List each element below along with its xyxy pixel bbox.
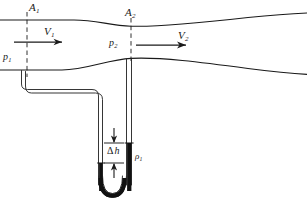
label-velocity-inlet-subscript: 1 bbox=[51, 31, 55, 39]
label-manometer-density-subscript: 1 bbox=[139, 156, 142, 162]
velocity-arrows bbox=[14, 39, 186, 49]
velocity-arrow-2 bbox=[136, 42, 186, 49]
manometer-left-inner-wall bbox=[26, 72, 103, 186]
label-pressure-inlet: p1 bbox=[3, 52, 11, 62]
fluid-column-right bbox=[127, 143, 131, 191]
label-delta-h: Δh bbox=[107, 146, 119, 156]
delta-h-arrow-up bbox=[111, 163, 117, 178]
label-manometer-density: ρ1 bbox=[135, 152, 142, 161]
pipe-outline bbox=[0, 13, 307, 74]
label-pressure-throat: p2 bbox=[109, 38, 117, 48]
label-area-throat: A2 bbox=[125, 7, 136, 18]
label-velocity-inlet: V1 bbox=[44, 26, 55, 37]
delta-h-arrow-down bbox=[111, 128, 117, 143]
label-area-throat-subscript: 2 bbox=[132, 12, 136, 20]
manometer-left-outer-wall bbox=[22, 71, 99, 186]
label-area-inlet: A1 bbox=[29, 2, 40, 13]
label-velocity-throat: V2 bbox=[178, 30, 189, 41]
velocity-arrow-1 bbox=[14, 39, 62, 45]
manometer-tubing bbox=[22, 59, 132, 198]
delta-symbol: Δ bbox=[107, 145, 114, 156]
label-area-inlet-subscript: 1 bbox=[36, 7, 40, 15]
label-velocity-throat-subscript: 2 bbox=[185, 35, 189, 43]
label-pressure-throat-subscript: 2 bbox=[114, 42, 117, 49]
venturi-meter-figure: A1 A2 V1 V2 p1 p2 Δh ρ1 bbox=[0, 0, 307, 203]
pipe-bottom-wall bbox=[0, 58, 307, 74]
label-pressure-inlet-subscript: 1 bbox=[8, 56, 11, 63]
